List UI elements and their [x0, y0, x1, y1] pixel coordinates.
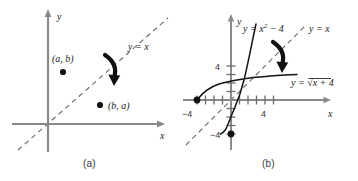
y-axis-arrowhead	[228, 14, 234, 22]
panel-a: y x y = x (a, b) (b, a) (a)	[0, 0, 179, 181]
y-tick-label-neg4: −4	[210, 130, 220, 140]
reflection-arrow-icon	[105, 55, 120, 86]
panel-a-plot: y x y = x (a, b) (b, a)	[0, 0, 179, 181]
parabola-label: y = x2 − 4	[242, 22, 284, 34]
y-axis-label: y	[236, 16, 242, 27]
identity-line-dashed	[18, 18, 168, 150]
endpoint-dot-neg4-0	[194, 97, 201, 104]
x-axis-label: x	[327, 108, 333, 119]
y-axis-arrowhead	[45, 9, 52, 17]
square-root-label-group: y = √x + 4	[290, 77, 334, 88]
y-tick-label-4: 4	[215, 62, 220, 72]
panel-b-caption: (b)	[179, 158, 358, 169]
point-ba-marker	[97, 102, 103, 108]
identity-line-label: y = x	[127, 41, 149, 52]
identity-line-dashed	[186, 26, 305, 145]
x-axis-arrowhead	[157, 121, 165, 128]
x-axis-arrowhead	[324, 97, 332, 103]
x-axis-label: x	[159, 130, 165, 141]
point-ab-label: (a, b)	[52, 53, 74, 65]
point-ba-label: (b, a)	[108, 100, 130, 112]
y-axis-label: y	[56, 11, 62, 22]
figure-container: y x y = x (a, b) (b, a) (a)	[0, 0, 358, 181]
identity-line-label: y = x	[308, 23, 330, 34]
endpoint-dot-0-neg4	[228, 131, 235, 138]
point-ab-marker	[60, 69, 66, 75]
reflection-arrow-icon	[273, 42, 288, 73]
square-root-curve	[197, 74, 297, 100]
panel-b: −4 4 4 −4 y x y = x2 − 4 y = x y	[179, 0, 358, 181]
panel-a-caption: (a)	[0, 158, 179, 169]
x-tick-label-4: 4	[261, 109, 266, 119]
x-tick-label-neg4: −4	[182, 109, 192, 119]
panel-b-plot: −4 4 4 −4 y x y = x2 − 4 y = x y	[179, 0, 358, 181]
